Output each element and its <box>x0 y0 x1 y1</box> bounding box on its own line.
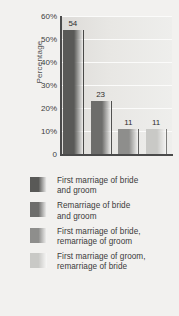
y-axis-tick-label: 60% <box>41 12 57 21</box>
bar-chart-figure: Percentage 60%50%40%30%20%10%0 54231111 … <box>0 0 179 316</box>
x-axis-line <box>60 154 173 156</box>
bar-value-label: 54 <box>68 19 77 28</box>
legend-item: First marriage of bride, remarriage of g… <box>30 227 176 247</box>
plot-area <box>61 16 172 154</box>
gridline <box>61 16 172 17</box>
legend-label: First marriage of bride and groom <box>57 176 138 196</box>
legend-swatch <box>30 228 47 243</box>
y-axis-line <box>60 16 62 155</box>
legend-label: First marriage of bride, remarriage of g… <box>57 227 141 247</box>
y-axis-tick-label: 0 <box>53 150 57 159</box>
bar <box>118 129 139 154</box>
bar <box>146 129 167 154</box>
y-axis-tick-label: 50% <box>41 35 57 44</box>
bar <box>91 101 112 154</box>
legend-swatch <box>30 177 47 192</box>
legend-item: First marriage of groom, remarriage of b… <box>30 252 176 272</box>
legend-item: Remarriage of bride and groom <box>30 201 176 221</box>
legend-swatch <box>30 253 47 268</box>
bar-value-label: 23 <box>96 90 105 99</box>
legend-item: First marriage of bride and groom <box>30 176 176 196</box>
bar <box>63 30 84 154</box>
bar-value-label: 11 <box>124 118 132 127</box>
y-axis-tick-label: 10% <box>41 127 57 136</box>
y-axis-tick-label: 30% <box>41 81 57 90</box>
bar-value-label: 11 <box>152 118 160 127</box>
chart-legend: First marriage of bride and groomRemarri… <box>30 176 176 278</box>
legend-label: First marriage of groom, remarriage of b… <box>57 252 146 272</box>
legend-label: Remarriage of bride and groom <box>57 201 130 221</box>
y-axis-tick-label: 40% <box>41 58 57 67</box>
legend-swatch <box>30 202 47 217</box>
y-axis-tick-label: 20% <box>41 104 57 113</box>
y-axis-tick-labels: 60%50%40%30%20%10%0 <box>27 16 57 154</box>
plot-region: Percentage 60%50%40%30%20%10%0 54231111 <box>13 16 173 168</box>
